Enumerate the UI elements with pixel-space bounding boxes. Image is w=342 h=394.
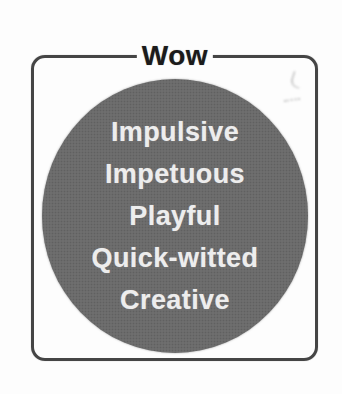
diagram-title: Wow [137, 40, 213, 71]
trait-label-quick-witted: Quick-witted [92, 237, 259, 279]
scan-smudge-artifact [283, 72, 303, 104]
trait-label-impetuous: Impetuous [105, 153, 245, 195]
diagram-canvas: Wow Impulsive Impetuous Playful Quick-wi… [0, 0, 342, 394]
trait-label-impulsive: Impulsive [111, 111, 239, 153]
scan-smudge-stroke [289, 71, 304, 90]
traits-circle: Impulsive Impetuous Playful Quick-witted… [42, 79, 308, 353]
scan-smudge-stroke [282, 88, 300, 102]
trait-label-creative: Creative [120, 279, 230, 321]
trait-label-playful: Playful [129, 195, 220, 237]
